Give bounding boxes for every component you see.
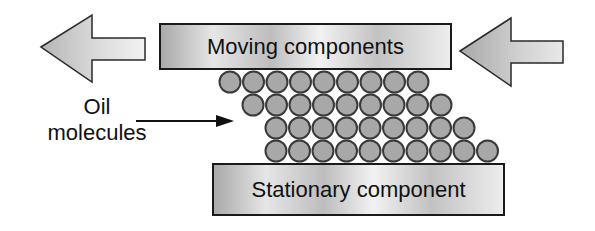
oil-molecule-icon — [383, 141, 404, 162]
oil-molecule-icon — [243, 72, 264, 93]
oil-molecules — [220, 72, 499, 162]
oil-molecule-icon — [313, 95, 334, 116]
callout-line-1: Oil — [22, 94, 172, 120]
oil-molecule-icon — [477, 141, 498, 162]
oil-molecule-icon — [454, 141, 475, 162]
oil-molecule-icon — [384, 72, 405, 93]
oil-molecule-icon — [431, 95, 452, 116]
oil-molecule-icon — [314, 72, 335, 93]
oil-molecule-icon — [267, 72, 288, 93]
oil-molecule-icon — [266, 118, 287, 139]
oil-molecule-icon — [266, 95, 287, 116]
oil-molecule-icon — [384, 95, 405, 116]
oil-molecule-icon — [408, 72, 429, 93]
oil-molecule-icon — [407, 95, 428, 116]
oil-molecule-icon — [290, 95, 311, 116]
oil-molecule-icon — [337, 72, 358, 93]
callout-line-2: molecules — [22, 120, 172, 146]
oil-molecule-icon — [290, 72, 311, 93]
oil-molecule-icon — [313, 141, 334, 162]
oil-molecule-icon — [336, 118, 357, 139]
right-arrow-icon — [460, 18, 563, 86]
oil-molecule-icon — [336, 141, 357, 162]
stationary-component-label: Stationary component — [251, 177, 465, 203]
oil-molecules-callout: Oil molecules — [22, 94, 172, 146]
oil-molecule-icon — [361, 72, 382, 93]
oil-molecule-icon — [454, 118, 475, 139]
oil-molecule-icon — [360, 95, 381, 116]
oil-molecule-icon — [407, 118, 428, 139]
moving-components-label: Moving components — [207, 34, 404, 60]
oil-molecule-icon — [360, 118, 381, 139]
oil-molecule-icon — [266, 141, 287, 162]
pointer-arrowhead-icon — [216, 115, 234, 127]
oil-molecule-icon — [337, 95, 358, 116]
oil-molecule-icon — [430, 118, 451, 139]
oil-molecule-icon — [289, 118, 310, 139]
oil-molecule-icon — [407, 141, 428, 162]
moving-components-box: Moving components — [159, 23, 452, 70]
oil-molecule-icon — [383, 118, 404, 139]
oil-molecule-icon — [360, 141, 381, 162]
left-arrow-icon — [41, 15, 145, 82]
stationary-component-box: Stationary component — [212, 163, 505, 216]
oil-molecule-icon — [430, 141, 451, 162]
oil-molecule-icon — [289, 141, 310, 162]
oil-molecule-icon — [243, 95, 264, 116]
oil-molecule-icon — [220, 72, 241, 93]
oil-molecule-icon — [313, 118, 334, 139]
